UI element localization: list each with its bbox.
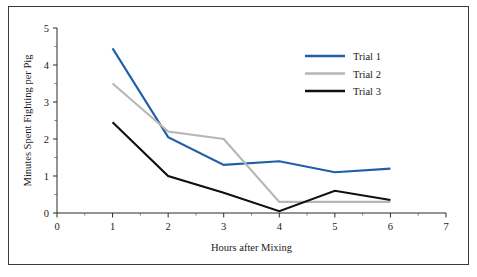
- y-axis-ticks: [53, 28, 57, 213]
- x-tick-label: 5: [332, 221, 337, 232]
- line-chart: 012345 01234567 Minutes Spent Fighting p…: [9, 7, 467, 263]
- x-axis-title: Hours after Mixing: [211, 242, 293, 253]
- y-tick-label: 1: [44, 171, 49, 182]
- legend-label-trial-2: Trial 2: [353, 69, 381, 80]
- legend-label-trial-1: Trial 1: [353, 51, 381, 62]
- chart-legend: Trial 1Trial 2Trial 3: [305, 51, 381, 97]
- y-tick-label: 4: [44, 60, 50, 71]
- series-line-trial-1: [113, 48, 391, 172]
- x-tick-label: 1: [110, 221, 115, 232]
- y-tick-label: 5: [44, 23, 49, 34]
- y-axis-tick-labels: 012345: [44, 23, 50, 219]
- x-tick-label: 7: [443, 221, 448, 232]
- figure-border: 012345 01234567 Minutes Spent Fighting p…: [8, 6, 469, 265]
- x-tick-label: 3: [221, 221, 226, 232]
- x-tick-label: 2: [166, 221, 171, 232]
- y-tick-label: 0: [44, 208, 49, 219]
- x-axis-tick-labels: 01234567: [54, 221, 448, 232]
- figure-container: 012345 01234567 Minutes Spent Fighting p…: [0, 0, 477, 277]
- series-line-trial-2: [113, 84, 391, 202]
- y-tick-label: 2: [44, 134, 49, 145]
- x-axis-ticks: [57, 213, 446, 218]
- y-tick-label: 3: [44, 97, 49, 108]
- y-axis-title: Minutes Spent Fighting per Pig: [22, 54, 33, 187]
- x-tick-label: 4: [277, 221, 283, 232]
- x-tick-label: 0: [54, 221, 59, 232]
- series-line-trial-3: [113, 122, 391, 211]
- legend-label-trial-3: Trial 3: [353, 86, 381, 97]
- data-series-group: [113, 48, 391, 211]
- x-tick-label: 6: [388, 221, 393, 232]
